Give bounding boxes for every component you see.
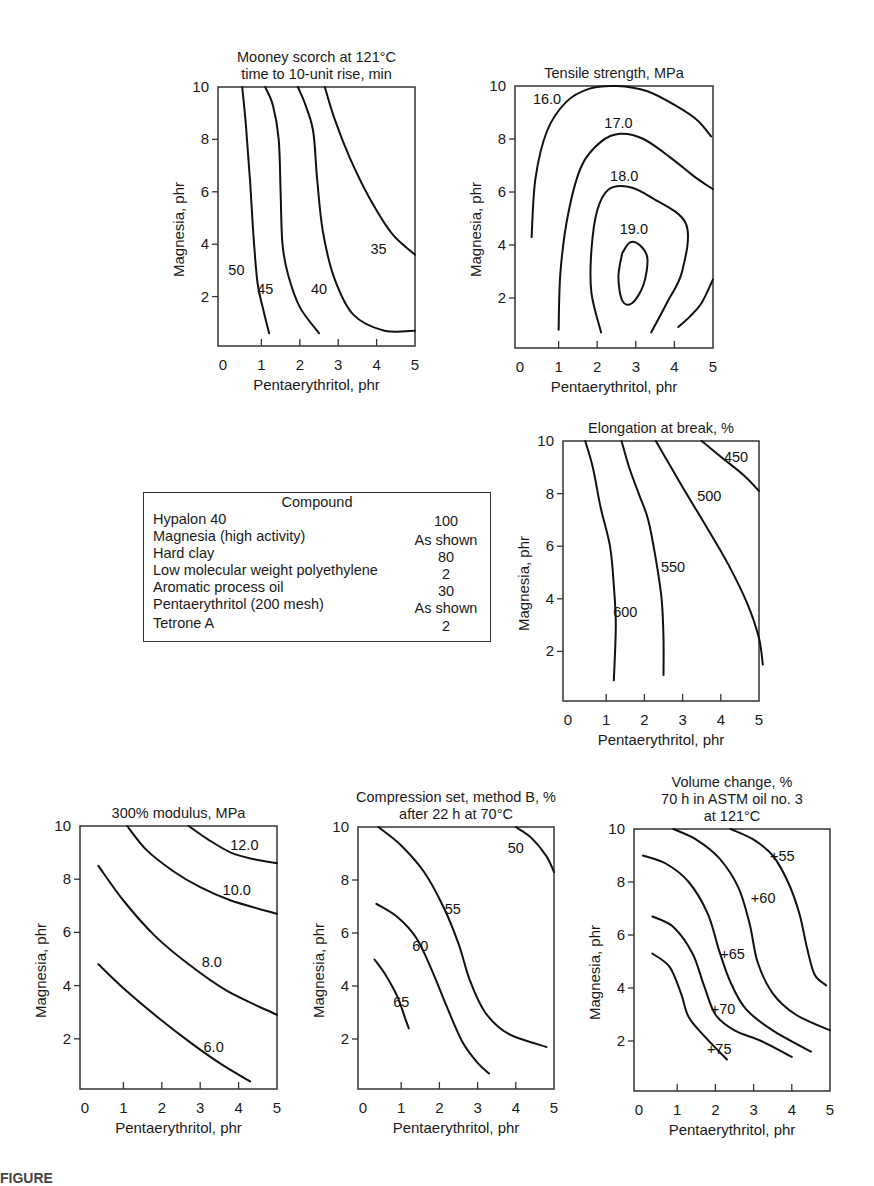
y-tick-label: 8: [617, 873, 625, 890]
contour-label: +75: [707, 1041, 732, 1057]
y-tick-label: 2: [617, 1032, 625, 1049]
ingredient-amount: 100: [406, 513, 486, 529]
compound-row: Tetrone A 2: [153, 615, 486, 630]
compound-row: Hypalon 40 100: [153, 511, 486, 526]
compound-row: Aromatic process oil 30: [153, 579, 486, 594]
contour-label: +65: [720, 946, 745, 962]
x-tick-label: 3: [749, 1101, 757, 1118]
ingredient-name: Hypalon 40: [153, 511, 226, 527]
contour-line: [652, 917, 791, 1057]
chart-title: Volume change, %70 h in ASTM oil no. 3at…: [582, 774, 874, 825]
y-axis-label: Magnesia, phr: [586, 925, 603, 1020]
ingredient-name: Low molecular weight polyethylene: [153, 562, 378, 578]
x-tick-label: 2: [711, 1101, 719, 1118]
contour-label: +70: [711, 1001, 736, 1017]
x-tick-label: 5: [826, 1101, 834, 1118]
ingredient-name: Magnesia (high activity): [153, 528, 305, 544]
y-tick-label: 4: [617, 979, 625, 996]
figure-caption: FIGURE: [0, 1170, 53, 1186]
x-tick-label: 4: [788, 1101, 796, 1118]
ingredient-amount: 2: [406, 618, 486, 634]
contour-line: [673, 829, 830, 1030]
ingredient-name: Pentaerythritol (200 mesh): [153, 596, 324, 612]
compound-row: Magnesia (high activity) As shown: [153, 528, 486, 543]
ingredient-name: Aromatic process oil: [153, 579, 284, 595]
compound-row: Low molecular weight polyethylene 2: [153, 562, 486, 577]
compound-row: Pentaerythritol (200 mesh) As shown: [153, 596, 486, 611]
compound-row: Hard clay 80: [153, 545, 486, 560]
ingredient-name: Tetrone A: [153, 615, 214, 631]
x-axis-label: Pentaerythritol, phr: [632, 1121, 832, 1138]
contour-label: +55: [770, 848, 795, 864]
ingredient-amount: As shown: [406, 600, 486, 616]
contour-label: +60: [751, 890, 776, 906]
x-tick-label: 1: [673, 1101, 681, 1118]
compound-formulation-table: Compound Hypalon 40 100 Magnesia (high a…: [143, 492, 491, 642]
x-tick-label: 0: [635, 1101, 643, 1118]
y-tick-label: 6: [617, 926, 625, 943]
compound-title: Compound: [144, 494, 490, 510]
ingredient-name: Hard clay: [153, 545, 214, 561]
